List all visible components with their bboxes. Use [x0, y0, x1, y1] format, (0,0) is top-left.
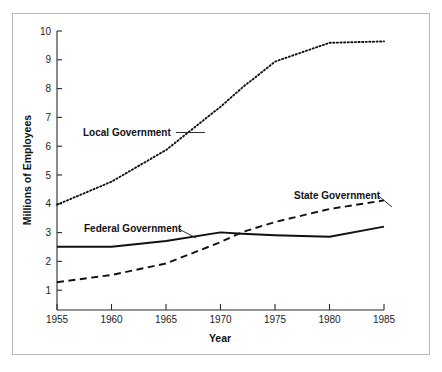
y-tick-label-4: 4 — [45, 198, 51, 209]
y-tick-label-3: 3 — [45, 227, 51, 238]
x-tick-label-1960: 1960 — [100, 314, 123, 325]
figure-container: 10 9 8 7 6 5 4 3 2 1 1955 1960 1965 1970… — [0, 0, 442, 372]
y-axis-title: Millions of Employees — [21, 115, 33, 225]
y-tick-label-7: 7 — [45, 112, 51, 123]
y-tick-label-8: 8 — [45, 83, 51, 94]
y-tick-label-5: 5 — [45, 170, 51, 181]
x-tick-marks — [57, 304, 384, 310]
x-tick-label-1975: 1975 — [264, 314, 287, 325]
x-tick-label-1955: 1955 — [46, 314, 69, 325]
x-tick-label-1965: 1965 — [155, 314, 178, 325]
y-tick-label-6: 6 — [45, 141, 51, 152]
y-tick-label-2: 2 — [45, 256, 51, 267]
x-tick-label-1980: 1980 — [318, 314, 341, 325]
x-axis-title: Year — [209, 332, 231, 344]
series-line-state-government — [57, 200, 384, 282]
series-label-federal-government: Federal Government — [84, 223, 182, 234]
x-tick-label-1985: 1985 — [373, 314, 396, 325]
series-label-state-government: State Government — [294, 190, 381, 201]
y-tick-label-10: 10 — [40, 26, 52, 37]
y-tick-marks — [57, 31, 62, 290]
series-label-local-government: Local Government — [83, 127, 171, 138]
x-tick-label-1970: 1970 — [209, 314, 232, 325]
y-tick-label-1: 1 — [45, 285, 51, 296]
series-line-local-government — [57, 41, 384, 204]
line-chart: 10 9 8 7 6 5 4 3 2 1 1955 1960 1965 1970… — [0, 0, 442, 372]
y-tick-label-9: 9 — [45, 54, 51, 65]
